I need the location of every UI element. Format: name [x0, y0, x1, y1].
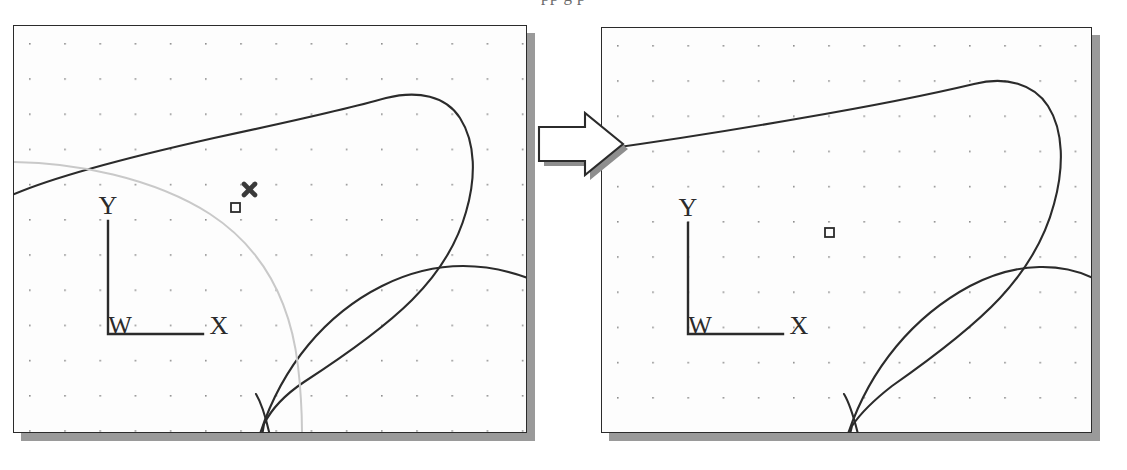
left-panel: Y W X	[13, 25, 527, 433]
transition-arrow-graphic	[534, 108, 630, 180]
left-panel-graphics: Y W X	[14, 26, 526, 432]
right-panel: Y W X	[601, 27, 1092, 433]
right-panel-graphics: Y W X	[602, 28, 1091, 432]
transition-arrow	[534, 108, 630, 180]
axis-label-w: W	[688, 312, 712, 339]
figure-canvas: pp g p	[0, 0, 1127, 470]
left-panel-content: Y W X	[14, 26, 526, 432]
axis-label-y: Y	[679, 193, 698, 222]
dot-grid	[602, 28, 1091, 432]
dot-grid	[14, 26, 526, 432]
axis-label-x: X	[210, 311, 229, 340]
axis-label-x: X	[790, 311, 809, 340]
right-panel-content: Y W X	[602, 28, 1091, 432]
axis-label-y: Y	[99, 191, 118, 220]
page-text-fragment: pp g p	[0, 0, 1127, 6]
axis-label-w: W	[108, 312, 132, 339]
